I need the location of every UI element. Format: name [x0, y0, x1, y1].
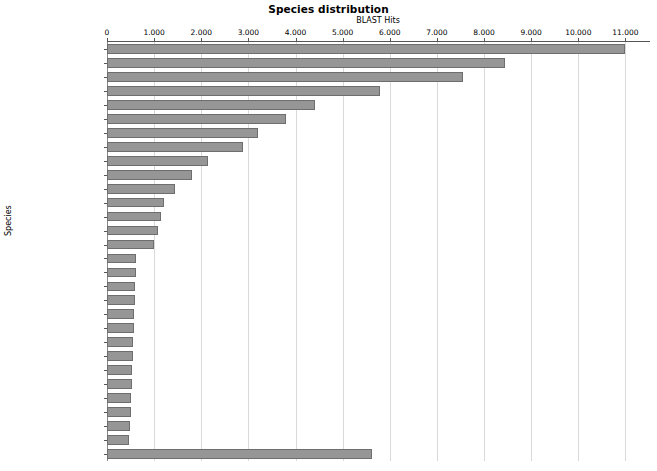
bar[interactable]: [107, 58, 505, 68]
bar-row: others: [107, 449, 649, 459]
y-tick-mark: [104, 286, 107, 287]
bar-row: Physcomitrella patens: [107, 309, 649, 319]
plot-area: Vitis viniferaPrunus persicaTheobroma ca…: [107, 42, 649, 461]
y-tick-mark: [104, 412, 107, 413]
x-tick-label: 10.000: [555, 28, 601, 37]
y-tick-mark: [104, 328, 107, 329]
bar[interactable]: [107, 100, 315, 110]
bar[interactable]: [107, 351, 133, 361]
bar[interactable]: [107, 393, 131, 403]
bar[interactable]: [107, 407, 131, 417]
bar[interactable]: [107, 365, 132, 375]
bar[interactable]: [107, 337, 133, 347]
bar-row: Selaginella moellendorffii: [107, 393, 649, 403]
x-tick-label: 1.000: [131, 28, 177, 37]
bar[interactable]: [107, 323, 134, 333]
bar[interactable]: [107, 142, 243, 152]
x-axis-label: BLAST Hits: [107, 16, 649, 25]
bar[interactable]: [107, 254, 136, 264]
bar-row: Oryza sativa: [107, 198, 649, 208]
bar-row: Glycine max: [107, 142, 649, 152]
bar-row: Triticum urartu: [107, 407, 649, 417]
x-tick-label: 7.000: [414, 28, 460, 37]
bar[interactable]: [107, 379, 132, 389]
bar[interactable]: [107, 156, 208, 166]
bar-row: Setaria italica: [107, 421, 649, 431]
species-distribution-chart: Species distribution BLAST Hits Species …: [0, 0, 657, 471]
bar-row: Lotus japonicus: [107, 379, 649, 389]
bar[interactable]: [107, 295, 135, 305]
y-tick-mark: [104, 300, 107, 301]
bar[interactable]: [107, 421, 130, 431]
bar-row: Arabidopsis thaliana: [107, 226, 649, 236]
bar[interactable]: [107, 309, 134, 319]
bar-row: Zea mays: [107, 240, 649, 250]
bar[interactable]: [107, 268, 136, 278]
bar-row: Prunus persica: [107, 58, 649, 68]
y-tick-mark: [104, 272, 107, 273]
y-tick-mark: [104, 398, 107, 399]
bar-row: Capsella rubella: [107, 295, 649, 305]
bar-row: Theobroma cacao: [107, 72, 649, 82]
bar-row: Aegilops tauschii: [107, 282, 649, 292]
x-tick-label: 0: [84, 28, 130, 37]
y-tick-mark: [104, 63, 107, 64]
bar[interactable]: [107, 435, 129, 445]
bar[interactable]: [107, 226, 158, 236]
bar[interactable]: [107, 198, 164, 208]
bar-row: Fragaria vesca: [107, 128, 649, 138]
y-tick-mark: [104, 231, 107, 232]
y-tick-mark: [104, 77, 107, 78]
bar-row: Eutrema salsugineum: [107, 268, 649, 278]
y-tick-mark: [104, 133, 107, 134]
bar-row: Medicago truncatula: [107, 170, 649, 180]
bar[interactable]: [107, 184, 175, 194]
bar[interactable]: [107, 72, 463, 82]
y-tick-mark: [104, 175, 107, 176]
y-tick-mark: [104, 342, 107, 343]
x-tick-label: 3.000: [225, 28, 271, 37]
bar[interactable]: [107, 240, 154, 250]
bar[interactable]: [107, 128, 258, 138]
y-tick-mark: [104, 356, 107, 357]
bar[interactable]: [107, 282, 135, 292]
bar-row: Sorghum bicolor: [107, 323, 649, 333]
bar-row: Genlisea aurea: [107, 365, 649, 375]
bar-row: Vitis vinifera: [107, 44, 649, 54]
y-tick-mark: [104, 258, 107, 259]
bar[interactable]: [107, 44, 625, 54]
x-tick-label: 4.000: [273, 28, 319, 37]
y-tick-mark: [104, 189, 107, 190]
bar-row: Cucumis sativus: [107, 156, 649, 166]
y-tick-mark: [104, 314, 107, 315]
y-tick-mark: [104, 454, 107, 455]
y-tick-mark: [104, 426, 107, 427]
chart-title: Species distribution: [0, 3, 657, 15]
y-tick-mark: [104, 161, 107, 162]
bar-row: Cicer arietinum: [107, 184, 649, 194]
y-tick-mark: [104, 384, 107, 385]
y-tick-mark: [104, 49, 107, 50]
bar[interactable]: [107, 170, 192, 180]
bar-row: Ricinus communis: [107, 114, 649, 124]
x-tick-label: 2.000: [178, 28, 224, 37]
y-tick-mark: [104, 105, 107, 106]
bar-row: Solanum lycopersicum: [107, 212, 649, 222]
y-tick-mark: [104, 203, 107, 204]
y-tick-mark: [104, 245, 107, 246]
bar[interactable]: [107, 449, 372, 459]
y-axis-label: Species: [4, 205, 13, 236]
x-tick-label: 8.000: [461, 28, 507, 37]
x-tick-label: 6.000: [367, 28, 413, 37]
y-tick-mark: [104, 217, 107, 218]
y-tick-mark: [104, 147, 107, 148]
bar[interactable]: [107, 212, 161, 222]
bar-row: Brachypodium distachyon: [107, 435, 649, 445]
x-tick-label: 5.000: [320, 28, 366, 37]
bar[interactable]: [107, 114, 286, 124]
bar-row: Arabidopsis lyrata: [107, 337, 649, 347]
bar-row: Citrus clementina: [107, 100, 649, 110]
x-tick-label: 9.000: [508, 28, 554, 37]
bar[interactable]: [107, 86, 380, 96]
y-tick-mark: [104, 370, 107, 371]
